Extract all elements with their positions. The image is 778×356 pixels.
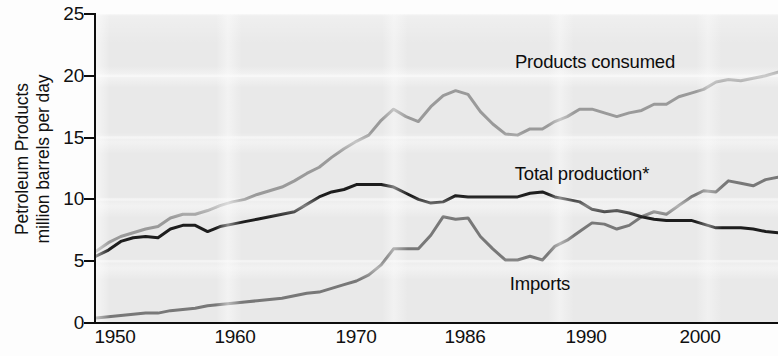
plot-svg bbox=[96, 14, 778, 323]
y-axis-line bbox=[94, 13, 96, 324]
x-axis-tick-label: 1990 bbox=[565, 327, 606, 346]
x-axis-tick-labels: 195019601970198619902000 bbox=[0, 327, 778, 355]
series-label-total-production: Total production* bbox=[515, 164, 649, 183]
series-label-imports: Imports bbox=[510, 274, 570, 293]
x-axis-tick-label: 1970 bbox=[335, 327, 376, 346]
series-line-total-production bbox=[96, 185, 778, 257]
petroleum-products-chart: Petroleum Products million barrels per d… bbox=[0, 0, 778, 356]
x-axis-tick-label: 1986 bbox=[444, 327, 485, 346]
x-axis-line bbox=[94, 322, 778, 324]
x-axis-tick-label: 1950 bbox=[94, 327, 135, 346]
x-axis-tick-label: 2000 bbox=[679, 327, 720, 346]
x-axis-tick-label: 1960 bbox=[214, 327, 255, 346]
y-axis-tick-marks bbox=[0, 0, 100, 356]
plot-area bbox=[96, 14, 778, 323]
series-label-products-consumed: Products consumed bbox=[515, 52, 675, 71]
